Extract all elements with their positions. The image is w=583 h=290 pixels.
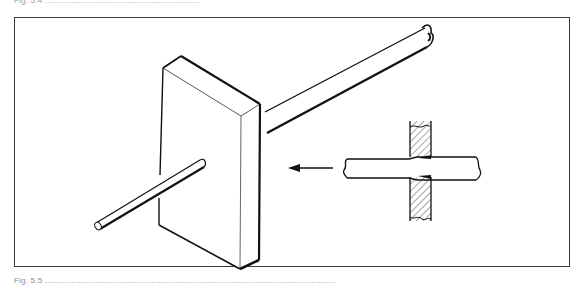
direction-arrow	[288, 164, 333, 172]
figure-caption-bottom: Fig. 5.5 ...............................…	[14, 276, 335, 285]
cross-section-rod	[343, 157, 480, 180]
cross-section-wall-hatched	[410, 121, 431, 221]
rod-rear-segment	[265, 25, 433, 133]
rectangular-block	[159, 56, 260, 269]
figure-illustration	[0, 0, 583, 290]
